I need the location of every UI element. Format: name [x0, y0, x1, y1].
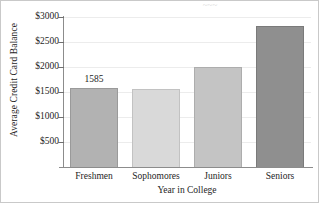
bar-seniors[interactable] [256, 26, 304, 167]
y-axis-tick-label: $3000 [19, 12, 59, 22]
y-axis-tick-label: $1500 [19, 87, 59, 97]
plot-area [63, 17, 311, 167]
bar-value-label: 1585 [64, 75, 124, 85]
y-axis-tick-mark [58, 142, 64, 143]
chart-figure: ~~~ Average Credit Card Balance $3000$25… [0, 0, 319, 203]
y-axis-tick-mark [58, 42, 64, 43]
y-axis-tick-label: $2000 [19, 62, 59, 72]
bar-juniors[interactable] [194, 67, 242, 167]
gridline [63, 17, 311, 18]
x-axis-line [59, 167, 313, 168]
x-axis-tick-label-seniors: Seniors [240, 171, 319, 181]
cropped-chart-title: ~~~ [187, 1, 233, 6]
y-axis-tick-labels: $3000$2500$2000$1500$1000$500 [19, 1, 59, 203]
y-axis-tick-mark [58, 117, 64, 118]
bar-sophomores[interactable] [132, 89, 180, 167]
y-axis-title: Average Credit Card Balance [9, 5, 19, 155]
y-axis-tick-label: $1000 [19, 112, 59, 122]
y-axis-tick-mark [58, 67, 64, 68]
bar-freshmen[interactable] [70, 88, 118, 167]
y-axis-tick-mark [58, 92, 64, 93]
y-axis-tick-label: $500 [19, 137, 59, 147]
y-axis-tick-mark [58, 17, 64, 18]
y-axis-tick-label: $2500 [19, 37, 59, 47]
x-axis-title: Year in College [63, 185, 311, 195]
